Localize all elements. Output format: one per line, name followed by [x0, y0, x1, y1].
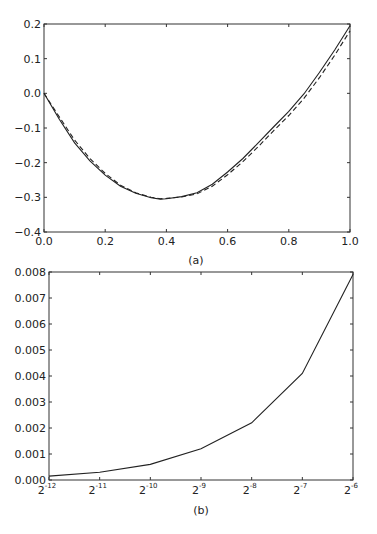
panel-b-caption: (b): [193, 504, 209, 517]
y-tick-label: 0.001: [15, 448, 47, 461]
panel-b-ticks: 2-122-112-102-92-82-72-60.0000.0010.0020…: [15, 266, 359, 497]
panel-a-caption: (a): [188, 254, 203, 267]
panel-a-axes-frame: [44, 24, 350, 232]
series-solid-line: [44, 26, 350, 199]
y-tick-label: 0.006: [15, 318, 47, 331]
figure: 0.00.20.40.60.81.0−0.4−0.3−0.2−0.10.00.1…: [0, 0, 377, 534]
panel-a-plot: 0.00.20.40.60.81.0−0.4−0.3−0.2−0.10.00.1…: [14, 18, 358, 248]
x-tick-label: 0.8: [280, 235, 298, 248]
y-tick-label: −0.2: [14, 157, 41, 170]
y-tick-label: 0.003: [15, 396, 47, 409]
y-tick-label: 0.005: [15, 344, 47, 357]
x-tick-label: 2-6: [344, 482, 359, 497]
y-tick-label: 0.004: [15, 370, 47, 383]
panel-b-plot: 2-122-112-102-92-82-72-60.0000.0010.0020…: [15, 266, 359, 497]
series-dashed-line: [44, 31, 350, 199]
y-tick-label: −0.1: [14, 122, 41, 135]
y-tick-label: 0.007: [15, 292, 47, 305]
panel-a-series: [44, 26, 350, 199]
x-tick-label: 2-9: [192, 482, 206, 497]
y-tick-label: 0.2: [24, 18, 42, 31]
panel-b-series: [49, 275, 353, 477]
y-tick-label: −0.4: [14, 226, 41, 239]
x-tick-label: 0.2: [96, 235, 114, 248]
x-tick-label: 0.6: [219, 235, 237, 248]
x-tick-label: 2-11: [88, 482, 106, 497]
x-tick-label: 1.0: [341, 235, 359, 248]
x-tick-label: 2-8: [243, 482, 257, 497]
y-tick-label: 0.1: [24, 53, 42, 66]
x-tick-label: 2-10: [139, 482, 157, 497]
y-tick-label: 0.0: [24, 87, 42, 100]
panel-a-ticks: 0.00.20.40.60.81.0−0.4−0.3−0.2−0.10.00.1…: [14, 18, 358, 248]
y-tick-label: −0.3: [14, 191, 41, 204]
y-tick-label: 0.002: [15, 422, 47, 435]
y-tick-label: 0.000: [15, 474, 47, 487]
series-error-line: [49, 275, 353, 477]
y-tick-label: 0.008: [15, 266, 47, 279]
x-tick-label: 2-7: [293, 482, 307, 497]
x-tick-label: 0.4: [158, 235, 176, 248]
